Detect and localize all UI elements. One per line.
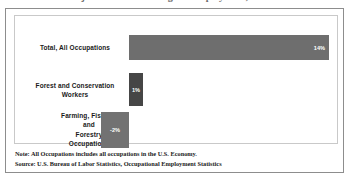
bar-farming-fishing-forestry-occupations: -2%	[101, 112, 129, 148]
bar-value-label: -2%	[110, 127, 120, 133]
bar-row: Total, All Occupations 14%	[15, 35, 337, 60]
bar-value-label: 1%	[132, 87, 140, 93]
note-text: Note: All Occupations includes all occup…	[15, 149, 335, 159]
bar-row: Farming, Fishing, and Forestry Occupatio…	[15, 112, 337, 148]
category-label-line: Total, All Occupations	[21, 43, 129, 52]
bar-value-label: 14%	[314, 45, 325, 51]
source-text: Source: U.S. Bureau of Labor Statistics,…	[15, 159, 335, 169]
bar-forest-and-conservation-workers: 1%	[129, 73, 143, 106]
category-label-line: Forest and Conservation	[21, 80, 129, 89]
chart-title-text: Projected Percent Change in Employment, …	[66, 0, 284, 2]
bar-total-all-occupations: 14%	[129, 35, 329, 60]
cut-off-chart-title: Projected Percent Change in Employment, …	[0, 0, 350, 7]
bar-row: Forest and Conservation Workers 1%	[15, 73, 337, 106]
figure-frame: Total, All Occupations 14% Forest and Co…	[5, 8, 344, 173]
category-label: Forest and Conservation Workers	[21, 80, 129, 99]
category-label: Total, All Occupations	[21, 43, 129, 52]
footnote-block: Note: All Occupations includes all occup…	[15, 149, 335, 169]
plot-area: Total, All Occupations 14% Forest and Co…	[14, 15, 338, 144]
category-label-line: Workers	[21, 90, 129, 99]
